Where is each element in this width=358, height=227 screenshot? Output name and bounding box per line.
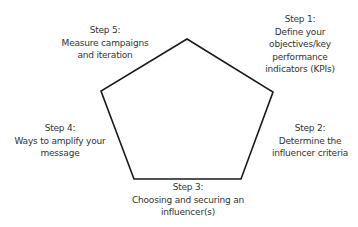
step-3-line-1: Choosing and securing an xyxy=(117,194,259,207)
step-3-line-2: influencer(s) xyxy=(117,206,259,219)
step-1-line-1: Define your xyxy=(250,26,350,39)
step-4-line-1: Ways to amplify your xyxy=(10,135,110,148)
step-2-line-2: influencer criteria xyxy=(262,147,358,160)
step-1-line-2: objectives/key xyxy=(250,38,350,51)
step-3-label: Step 3: Choosing and securing an influen… xyxy=(117,181,259,219)
step-1-title: Step 1: xyxy=(250,13,350,26)
step-4-line-2: message xyxy=(10,147,110,160)
step-5-line-1: Measure campaigns xyxy=(50,37,160,50)
step-5-title: Step 5: xyxy=(50,24,160,37)
pentagon-process-diagram: Step 1: Define your objectives/key perfo… xyxy=(0,0,358,227)
step-3-title: Step 3: xyxy=(117,181,259,194)
step-4-title: Step 4: xyxy=(10,122,110,135)
step-1-label: Step 1: Define your objectives/key perfo… xyxy=(250,13,350,76)
step-4-label: Step 4: Ways to amplify your message xyxy=(10,122,110,160)
step-2-title: Step 2: xyxy=(262,122,358,135)
step-2-line-1: Determine the xyxy=(262,135,358,148)
step-1-line-3: performance xyxy=(250,51,350,64)
step-2-label: Step 2: Determine the influencer criteri… xyxy=(262,122,358,160)
step-1-line-4: indicators (KPIs) xyxy=(250,63,350,76)
step-5-line-2: and iteration xyxy=(50,49,160,62)
step-5-label: Step 5: Measure campaigns and iteration xyxy=(50,24,160,62)
